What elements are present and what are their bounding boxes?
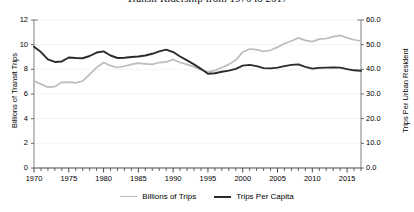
x-axis-tick-label: 2010 xyxy=(297,174,327,183)
chart-legend: Billions of Trips Trips Per Capita xyxy=(0,192,414,201)
right-axis-tick-label: 10.0 xyxy=(366,138,394,147)
legend-swatch-gray-icon xyxy=(120,196,137,197)
x-axis-tick-label: 1970 xyxy=(19,174,49,183)
legend-label: Trips Per Capita xyxy=(236,192,294,201)
x-axis-tick-label: 1990 xyxy=(158,174,188,183)
right-axis-tick-label: 20.0 xyxy=(366,114,394,123)
legend-swatch-black-icon xyxy=(214,196,231,198)
right-axis-tick-label: 30.0 xyxy=(366,89,394,98)
left-axis-tick-label: 10 xyxy=(4,40,28,49)
left-axis-tick-label: 0 xyxy=(4,163,28,172)
x-axis-tick-label: 1985 xyxy=(123,174,153,183)
legend-label: Billions of Trips xyxy=(142,192,196,201)
left-axis-tick-label: 8 xyxy=(4,64,28,73)
x-axis-tick-label: 1980 xyxy=(89,174,119,183)
right-axis-tick-label: 60.0 xyxy=(366,15,394,24)
x-axis-tick-label: 1975 xyxy=(54,174,84,183)
legend-item-trips-per-capita: Trips Per Capita xyxy=(214,192,294,201)
x-axis-tick-label: 2005 xyxy=(263,174,293,183)
legend-item-billions-of-trips: Billions of Trips xyxy=(120,192,196,201)
right-axis-tick-label: 0.0 xyxy=(366,163,394,172)
right-axis-tick-label: 50.0 xyxy=(366,40,394,49)
x-axis-tick-label: 2015 xyxy=(332,174,362,183)
right-axis-tick-label: 40.0 xyxy=(366,64,394,73)
left-axis-tick-label: 2 xyxy=(4,138,28,147)
left-axis-tick-label: 6 xyxy=(4,89,28,98)
left-axis-tick-label: 4 xyxy=(4,114,28,123)
left-axis-tick-label: 12 xyxy=(4,15,28,24)
x-axis-tick-label: 1995 xyxy=(193,174,223,183)
chart-container: Transit Ridership from 1970 to 2017 Bill… xyxy=(0,0,414,212)
x-axis-tick-label: 2000 xyxy=(228,174,258,183)
